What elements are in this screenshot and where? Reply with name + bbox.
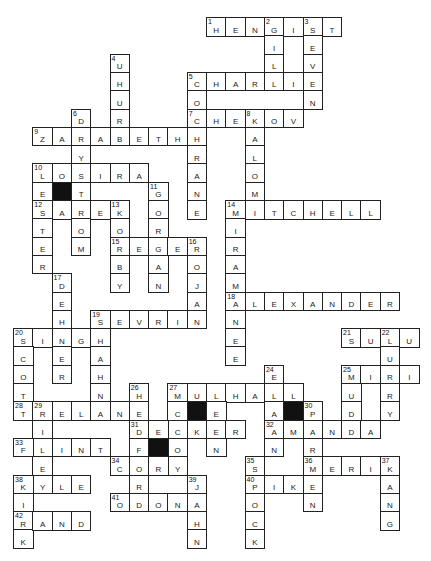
- grid-cell[interactable]: I: [360, 365, 381, 385]
- grid-cell[interactable]: A: [245, 383, 266, 403]
- grid-cell[interactable]: O: [110, 218, 131, 238]
- grid-cell[interactable]: V: [303, 54, 324, 74]
- grid-cell[interactable]: 22L: [380, 328, 401, 348]
- grid-cell[interactable]: 35S: [245, 456, 266, 476]
- grid-cell[interactable]: A: [32, 511, 53, 531]
- grid-cell[interactable]: R: [341, 456, 362, 476]
- grid-cell[interactable]: D: [341, 401, 362, 421]
- grid-cell[interactable]: L: [283, 383, 304, 403]
- grid-cell[interactable]: C: [283, 200, 304, 220]
- grid-cell[interactable]: Y: [110, 273, 131, 293]
- grid-cell[interactable]: I: [245, 200, 266, 220]
- grid-cell[interactable]: H: [167, 127, 188, 147]
- grid-cell[interactable]: I: [167, 310, 188, 330]
- grid-cell[interactable]: A: [264, 401, 285, 421]
- grid-cell[interactable]: L: [245, 145, 266, 165]
- grid-cell[interactable]: M: [225, 273, 246, 293]
- grid-cell[interactable]: 36M: [303, 456, 324, 476]
- grid-cell[interactable]: G: [148, 237, 169, 257]
- grid-cell[interactable]: I: [360, 456, 381, 476]
- grid-cell[interactable]: 20S: [13, 328, 34, 348]
- grid-cell[interactable]: L: [360, 200, 381, 220]
- grid-cell[interactable]: 18A: [225, 292, 246, 312]
- grid-cell[interactable]: E: [187, 200, 208, 220]
- grid-cell[interactable]: L: [264, 383, 285, 403]
- grid-cell[interactable]: E: [225, 17, 246, 37]
- grid-cell[interactable]: 16R: [187, 237, 208, 257]
- grid-cell[interactable]: E: [148, 420, 169, 440]
- grid-cell[interactable]: E: [129, 127, 150, 147]
- grid-cell[interactable]: 37K: [380, 456, 401, 476]
- grid-cell[interactable]: O: [187, 90, 208, 110]
- grid-cell[interactable]: H: [52, 310, 73, 330]
- grid-cell[interactable]: E: [129, 401, 150, 421]
- grid-cell[interactable]: O: [71, 218, 92, 238]
- grid-cell[interactable]: 39J: [187, 475, 208, 495]
- grid-cell[interactable]: C: [245, 511, 266, 531]
- grid-cell[interactable]: 17D: [52, 273, 73, 293]
- grid-cell[interactable]: T: [32, 218, 53, 238]
- grid-cell[interactable]: K: [283, 475, 304, 495]
- grid-cell[interactable]: H: [303, 200, 324, 220]
- grid-cell[interactable]: A: [52, 127, 73, 147]
- grid-cell[interactable]: K: [187, 420, 208, 440]
- grid-cell[interactable]: N: [52, 328, 73, 348]
- grid-cell[interactable]: O: [148, 493, 169, 513]
- grid-cell[interactable]: E: [32, 456, 53, 476]
- grid-cell[interactable]: R: [110, 109, 131, 129]
- grid-cell[interactable]: M: [283, 420, 304, 440]
- grid-cell[interactable]: I: [225, 218, 246, 238]
- grid-cell[interactable]: R: [225, 420, 246, 440]
- grid-cell[interactable]: N: [90, 383, 111, 403]
- grid-cell[interactable]: D: [129, 493, 150, 513]
- grid-cell[interactable]: N: [167, 493, 188, 513]
- grid-cell[interactable]: 26H: [129, 383, 150, 403]
- grid-cell[interactable]: E: [206, 401, 227, 421]
- grid-cell[interactable]: A: [245, 127, 266, 147]
- grid-cell[interactable]: L: [264, 54, 285, 74]
- grid-cell[interactable]: B: [110, 255, 131, 275]
- grid-cell[interactable]: Y: [32, 475, 53, 495]
- grid-cell[interactable]: 21S: [341, 328, 362, 348]
- grid-cell[interactable]: A: [52, 200, 73, 220]
- grid-cell[interactable]: 25M: [341, 365, 362, 385]
- grid-cell[interactable]: 10L: [32, 163, 53, 183]
- grid-cell[interactable]: N: [245, 17, 266, 37]
- grid-cell[interactable]: U: [187, 383, 208, 403]
- grid-cell[interactable]: X: [283, 292, 304, 312]
- grid-cell[interactable]: 41O: [110, 493, 131, 513]
- grid-cell[interactable]: E: [167, 237, 188, 257]
- grid-cell[interactable]: E: [264, 292, 285, 312]
- grid-cell[interactable]: R: [187, 145, 208, 165]
- grid-cell[interactable]: H: [225, 383, 246, 403]
- grid-cell[interactable]: N: [52, 511, 73, 531]
- grid-cell[interactable]: 12S: [32, 200, 53, 220]
- grid-cell[interactable]: H: [90, 328, 111, 348]
- grid-cell[interactable]: E: [322, 200, 343, 220]
- grid-cell[interactable]: U: [380, 346, 401, 366]
- grid-cell[interactable]: I: [399, 365, 420, 385]
- grid-cell[interactable]: L: [71, 401, 92, 421]
- grid-cell[interactable]: H: [187, 127, 208, 147]
- grid-cell[interactable]: Y: [380, 401, 401, 421]
- grid-cell[interactable]: A: [225, 72, 246, 92]
- grid-cell[interactable]: R: [110, 163, 131, 183]
- grid-cell[interactable]: T: [13, 383, 34, 403]
- grid-cell[interactable]: E: [52, 401, 73, 421]
- grid-cell[interactable]: N: [71, 438, 92, 458]
- grid-cell[interactable]: H: [187, 511, 208, 531]
- grid-cell[interactable]: 2G: [264, 17, 285, 37]
- grid-cell[interactable]: E: [225, 109, 246, 129]
- grid-cell[interactable]: R: [52, 365, 73, 385]
- grid-cell[interactable]: A: [360, 420, 381, 440]
- grid-cell[interactable]: A: [148, 255, 169, 275]
- grid-cell[interactable]: A: [380, 475, 401, 495]
- grid-cell[interactable]: K: [13, 529, 34, 549]
- grid-cell[interactable]: Y: [167, 456, 188, 476]
- grid-cell[interactable]: I: [90, 163, 111, 183]
- grid-cell[interactable]: 30P: [303, 401, 324, 421]
- grid-cell[interactable]: N: [206, 438, 227, 458]
- grid-cell[interactable]: E: [71, 475, 92, 495]
- grid-cell[interactable]: N: [110, 401, 131, 421]
- grid-cell[interactable]: A: [303, 420, 324, 440]
